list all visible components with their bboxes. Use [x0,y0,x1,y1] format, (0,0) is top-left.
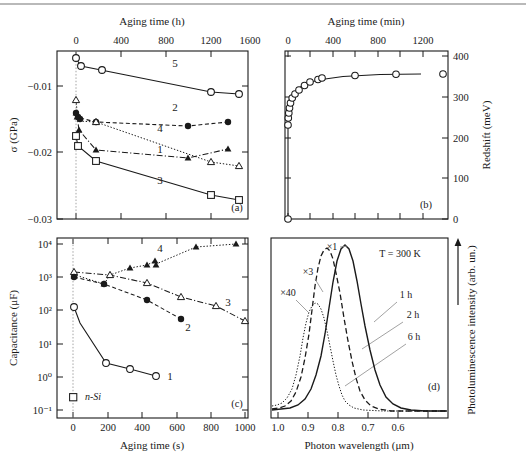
panel-d-xtick-1: 0.9 [301,422,314,433]
panel-a: Aging time (h) 0 400 800 1200 1600 −0.01… [0,8,263,230]
panel-a-frame [57,51,248,219]
panel-c-ylabel: Capacitance (μF) [7,290,20,366]
panel-b-xtick-2: 800 [370,35,386,46]
panel-c-xtick-3: 600 [169,422,185,433]
panel-a-curve-label-1: 1 [157,143,163,155]
panel-a-xtick-1: 400 [113,35,129,46]
panel-d-scale-x3: ×3 [303,266,314,277]
panel-d-intensity-arrow [455,238,462,305]
panel-c-ytick-2: 10¹ [38,339,52,350]
panel-a-curve-label-2: 2 [172,101,178,113]
panel-a-ytick-2: −0.03 [28,214,52,225]
panel-a-curve-label-4: 4 [157,122,163,134]
panel-d-temperature: T = 300 K [379,248,421,259]
panel-c-ytick-3: 10² [38,305,52,316]
panel-c-curve-label-3: 3 [225,296,231,308]
header-rule [0,3,526,5]
panel-d-curve-2h: ×3 2 h [272,248,447,411]
panel-b: Aging time (min) 0 400 800 1200 0 100 20… [263,8,526,230]
panel-d-time-1h: 1 h [400,289,413,300]
panel-b-ytick-3: 300 [453,92,469,103]
panel-c-ytick-4: 10³ [38,272,52,283]
panel-d-xtick-3: 0.7 [361,422,374,433]
panel-a-xticks [76,51,211,219]
panel-d-xtick-4: 0.6 [391,422,404,433]
panel-d-xtick-2: 0.8 [331,422,344,433]
panel-b-xtick-1: 400 [325,35,341,46]
panel-a-ytick-1: −0.02 [28,147,52,158]
panel-c: 10⁴ 10³ 10² 10¹ 10⁰ 10⁻¹ Capacitance (μF… [0,230,263,461]
panel-c-xlabel: Aging time (s) [120,439,184,452]
panel-d-xtick-0: 1.0 [271,422,284,433]
panel-c-id: (c) [231,398,243,410]
panel-c-series-3: 3 [70,268,248,323]
panel-d-ylabel: Photoluminescence intensity (arb. un.) [465,245,478,415]
panel-c-ytick-0: 10⁻¹ [33,405,52,416]
panel-c-nsi-marker [70,394,77,401]
panel-d-id: (d) [428,381,441,393]
panel-b-ytick-0: 0 [453,214,458,225]
panel-a-xtick-4: 1600 [240,35,261,46]
panel-d-xlabel: Photon wavelength (μm) [304,439,413,452]
panel-b-xtick-0: 0 [285,35,290,46]
panel-a-ytick-0: −0.01 [28,81,52,92]
panel-c-nsi-label: n-Si [85,391,101,402]
panel-c-xtick-2: 400 [134,422,150,433]
panel-d-scale-x40: ×40 [280,287,296,298]
panel-c-series-1: 1 [71,304,173,382]
panel-a-curve-label-5: 5 [172,57,178,69]
panel-d-curve-6h: ×40 6 h [272,287,447,411]
panel-b-ytick-4: 400 [453,51,469,62]
panel-d-xticks [278,412,428,418]
panel-c-xtick-0: 0 [70,422,75,433]
panel-b-svg: Aging time (min) 0 400 800 1200 0 100 20… [263,8,526,230]
panel-d-svg: 1.0 0.9 0.8 0.7 0.6 Photon wavelength (μ… [263,230,526,461]
panel-d-time-2h: 2 h [407,309,420,320]
panel-a-xtick-3: 1200 [201,35,222,46]
panel-a-series-1: 1 [73,110,232,161]
panel-a-svg: Aging time (h) 0 400 800 1200 1600 −0.01… [0,8,263,230]
panel-a-ylabel: σ (GPa) [7,117,20,152]
panel-c-xtick-4: 800 [203,422,219,433]
panel-d: 1.0 0.9 0.8 0.7 0.6 Photon wavelength (μ… [263,230,526,461]
panel-c-ytick-5: 10⁴ [38,239,53,250]
panel-a-xlabel: Aging time (h) [119,15,185,28]
panel-b-ytick-2: 200 [453,133,469,144]
panel-b-xlabel: Aging time (min) [328,15,405,28]
panel-b-id: (b) [420,199,433,211]
panel-c-svg: 10⁴ 10³ 10² 10¹ 10⁰ 10⁻¹ Capacitance (μF… [0,230,263,461]
panel-a-curve-label-3: 3 [157,174,163,186]
panel-c-xtick-5: 1000 [235,422,256,433]
panel-a-series-5: 5 [73,55,243,98]
panel-c-series-4: 4 [71,241,240,287]
panel-b-frame [285,51,448,219]
panel-d-time-6h: 6 h [408,331,421,342]
panel-c-ytick-1: 10⁰ [37,372,52,383]
panel-c-curve-label-4: 4 [157,242,163,254]
panel-a-id: (a) [231,202,243,214]
panel-c-series-2: 2 [71,274,191,333]
panel-c-nsi-annotation: n-Si [70,391,102,402]
panel-b-xtick-3: 1200 [413,35,434,46]
panel-c-curve-label-2: 2 [185,321,191,333]
panel-c-yticks [57,244,248,410]
panel-a-xtick-2: 800 [158,35,174,46]
panel-b-ytick-1: 100 [453,173,469,184]
panel-a-xtick-0: 0 [73,35,78,46]
panel-c-curve-label-1: 1 [167,370,173,382]
panel-d-scale-x1: ×1 [327,241,338,252]
four-panel-figure: Aging time (h) 0 400 800 1200 1600 −0.01… [0,0,526,461]
panel-c-xtick-1: 200 [100,422,116,433]
panel-b-ylabel: Redshift (meV) [480,100,493,169]
